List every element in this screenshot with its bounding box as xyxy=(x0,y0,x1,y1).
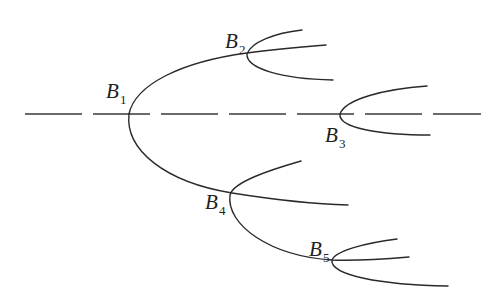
parabola-b3 xyxy=(340,86,430,135)
bifurcation-diagram: B 1 B 2 B 3 B 4 B 5 xyxy=(0,0,501,305)
parabola-b5 xyxy=(332,239,448,286)
label-b1: B 1 xyxy=(106,79,127,107)
svg-text:3: 3 xyxy=(339,136,346,151)
branch-b1-upper xyxy=(129,45,326,114)
svg-text:B: B xyxy=(309,237,322,261)
svg-text:2: 2 xyxy=(239,42,246,57)
svg-text:B: B xyxy=(106,79,119,103)
parabola-b2 xyxy=(247,30,333,80)
label-b2: B 2 xyxy=(225,29,246,57)
label-b4: B 4 xyxy=(205,190,226,218)
svg-text:B: B xyxy=(325,123,338,147)
svg-text:4: 4 xyxy=(219,203,226,218)
svg-text:1: 1 xyxy=(120,92,127,107)
svg-text:5: 5 xyxy=(323,250,330,265)
svg-text:B: B xyxy=(225,29,238,53)
label-b5: B 5 xyxy=(309,237,330,265)
branch-b1-lower xyxy=(129,114,348,205)
label-b3: B 3 xyxy=(325,123,346,151)
svg-text:B: B xyxy=(205,190,218,214)
